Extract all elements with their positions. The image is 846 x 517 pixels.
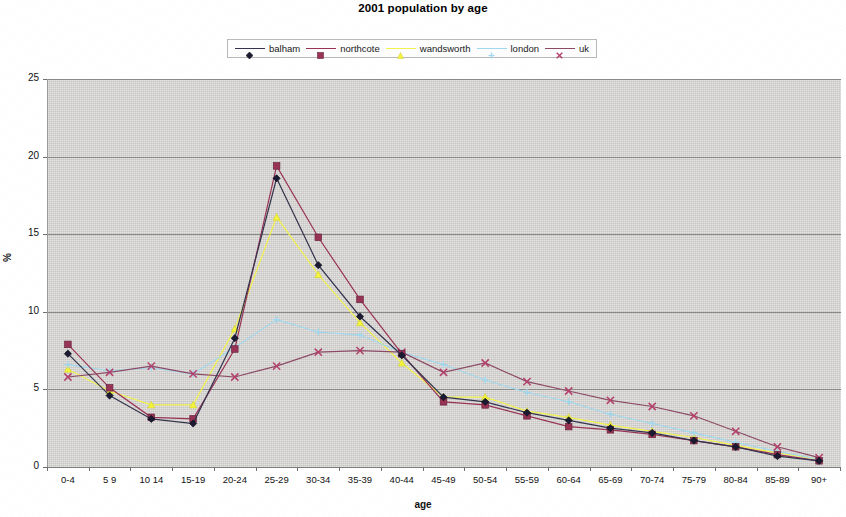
x-tick-mark-7 [339, 467, 340, 471]
x-tick-mark-14 [631, 467, 632, 471]
x-tick-mark-18 [798, 467, 799, 471]
legend-swatch-balham-icon [235, 43, 265, 55]
x-tick-label-35-39: 35-39 [339, 474, 381, 485]
legend-item-uk[interactable]: uk [545, 43, 589, 55]
x-tick-mark-3 [172, 467, 173, 471]
x-tick-mark-5 [256, 467, 257, 471]
y-tick-mark-10 [43, 312, 47, 313]
y-tick-mark-25 [43, 79, 47, 80]
x-tick-label-40-44: 40-44 [381, 474, 423, 485]
x-tick-mark-11 [506, 467, 507, 471]
x-tick-label-50-54: 50-54 [464, 474, 506, 485]
legend-swatch-london-icon [477, 43, 507, 55]
legend-swatch-uk-icon [545, 43, 575, 55]
x-tick-mark-12 [548, 467, 549, 471]
y-axis-title: % [2, 253, 13, 262]
x-tick-label-20-24: 20-24 [214, 474, 256, 485]
y-tick-mark-20 [43, 157, 47, 158]
legend-label-balham: balham [269, 43, 300, 54]
x-tick-label-30-34: 30-34 [297, 474, 339, 485]
x-tick-label-15-19: 15-19 [172, 474, 214, 485]
x-tick-label-90: 90+ [798, 474, 840, 485]
x-tick-label-70-74: 70-74 [631, 474, 673, 485]
x-tick-mark-0 [47, 467, 48, 471]
x-axis-title: age [0, 499, 846, 510]
y-tick-label-20: 20 [13, 150, 39, 161]
x-tick-mark-2 [130, 467, 131, 471]
chart-legend: balhamnorthcotewandsworthlondonuk [227, 39, 597, 58]
legend-swatch-wandsworth-icon [386, 43, 416, 55]
x-tick-mark-1 [89, 467, 90, 471]
gridline-y-25 [48, 79, 841, 80]
y-tick-label-5: 5 [13, 382, 39, 393]
x-tick-label-80-84: 80-84 [715, 474, 757, 485]
y-tick-label-0: 0 [13, 460, 39, 471]
x-tick-label-55-59: 55-59 [506, 474, 548, 485]
x-tick-label-0-4: 0-4 [47, 474, 89, 485]
x-tick-mark-13 [590, 467, 591, 471]
gridline-y-20 [48, 157, 841, 158]
gridline-y-15 [48, 234, 841, 235]
chart-title: 2001 population by age [0, 2, 846, 14]
legend-label-uk: uk [579, 43, 589, 54]
x-tick-mark-16 [715, 467, 716, 471]
x-tick-mark-9 [423, 467, 424, 471]
legend-item-northcote[interactable]: northcote [306, 43, 380, 55]
x-tick-label-59: 5 9 [89, 474, 131, 485]
x-tick-label-60-64: 60-64 [548, 474, 590, 485]
y-tick-label-15: 15 [13, 227, 39, 238]
gridline-y-5 [48, 389, 841, 390]
x-tick-mark-15 [673, 467, 674, 471]
x-tick-mark-6 [297, 467, 298, 471]
legend-label-london: london [511, 43, 540, 54]
x-tick-label-1014: 10 14 [130, 474, 172, 485]
x-tick-label-25-29: 25-29 [256, 474, 298, 485]
gridline-y-10 [48, 312, 841, 313]
legend-label-wandsworth: wandsworth [420, 43, 471, 54]
x-tick-label-85-89: 85-89 [757, 474, 799, 485]
y-tick-label-25: 25 [13, 72, 39, 83]
legend-label-northcote: northcote [340, 43, 380, 54]
plot-area [47, 79, 841, 468]
legend-item-balham[interactable]: balham [235, 43, 300, 55]
x-tick-mark-17 [757, 467, 758, 471]
x-tick-mark-8 [381, 467, 382, 471]
legend-item-wandsworth[interactable]: wandsworth [386, 43, 471, 55]
x-tick-label-75-79: 75-79 [673, 474, 715, 485]
x-tick-label-45-49: 45-49 [423, 474, 465, 485]
y-tick-mark-5 [43, 389, 47, 390]
x-tick-mark-end [840, 467, 841, 471]
legend-swatch-northcote-icon [306, 43, 336, 55]
chart-container: 2001 population by age balhamnorthcotewa… [0, 0, 846, 517]
y-tick-label-10: 10 [13, 305, 39, 316]
x-tick-mark-10 [464, 467, 465, 471]
x-tick-mark-4 [214, 467, 215, 471]
y-tick-mark-15 [43, 234, 47, 235]
legend-item-london[interactable]: london [477, 43, 540, 55]
x-tick-label-65-69: 65-69 [590, 474, 632, 485]
